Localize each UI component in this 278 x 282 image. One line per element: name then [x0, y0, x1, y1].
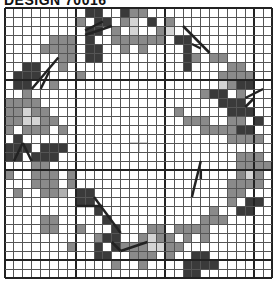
cross-stitch-chart — [5, 8, 272, 278]
backstitch-stems — [5, 8, 272, 278]
